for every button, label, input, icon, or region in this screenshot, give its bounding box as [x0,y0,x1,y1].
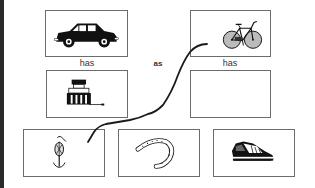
bicycle-icon [191,11,270,56]
bicycle-card [190,10,271,57]
answer-box[interactable] [190,70,271,118]
choice-sneaker[interactable] [213,129,295,177]
relation-label-right: has [218,58,242,68]
choice-anchor[interactable] [23,129,105,177]
car-card [45,10,128,57]
horseshoe-icon [119,130,199,176]
relation-label-left: has [75,58,99,68]
anchor-icon [24,130,104,176]
sneaker-icon [214,130,294,176]
car-icon [46,11,127,56]
connector-label: as [150,59,166,69]
choice-horseshoe[interactable] [118,129,200,177]
engine-icon [47,71,127,117]
left-edge-bar [0,0,4,188]
engine-card [46,70,128,118]
